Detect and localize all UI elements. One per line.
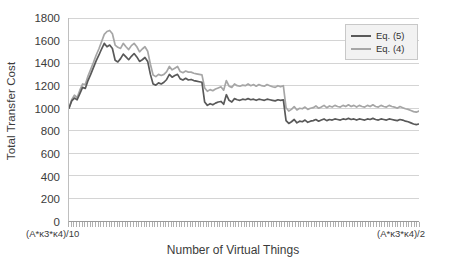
y-axis-tick-label: 0 [54,216,60,228]
chart-container: Total Transfer Cost 02004006008001000120… [0,0,466,270]
chart-legend: Eq. (5)Eq. (4) [345,24,418,60]
y-axis-title: Total Transfer Cost [2,0,20,222]
y-axis-tick-label: 1000 [34,103,60,115]
x-axis-title: Number of Virtual Things [0,243,466,257]
y-axis-title-text: Total Transfer Cost [5,62,17,160]
x-axis-ticks [68,222,420,229]
legend-item[interactable]: Eq. (5) [351,29,413,42]
y-axis-tick-labels: 020040060080010001200140016001800 [22,0,64,230]
x-axis-tick-marks [68,222,420,229]
y-axis-tick-label: 400 [41,171,60,183]
y-axis-tick-label: 1800 [34,12,60,24]
legend-color-swatch [351,48,371,50]
y-axis-tick-label: 800 [41,125,60,137]
x-axis-start-label: (A*κ3*κ4)/10 [26,228,79,239]
legend-label: Eq. (5) [376,31,405,41]
legend-label: Eq. (4) [376,44,405,54]
y-axis-tick-label: 1400 [34,57,60,69]
x-axis-end-label: (A*κ3*κ4)/2 [377,228,425,239]
legend-color-swatch [351,35,371,37]
y-axis-tick-label: 1600 [34,35,60,47]
y-axis-tick-label: 600 [41,148,60,160]
y-axis-tick-label: 1200 [34,80,60,92]
legend-item[interactable]: Eq. (4) [351,42,413,55]
y-axis-tick-label: 200 [41,193,60,205]
